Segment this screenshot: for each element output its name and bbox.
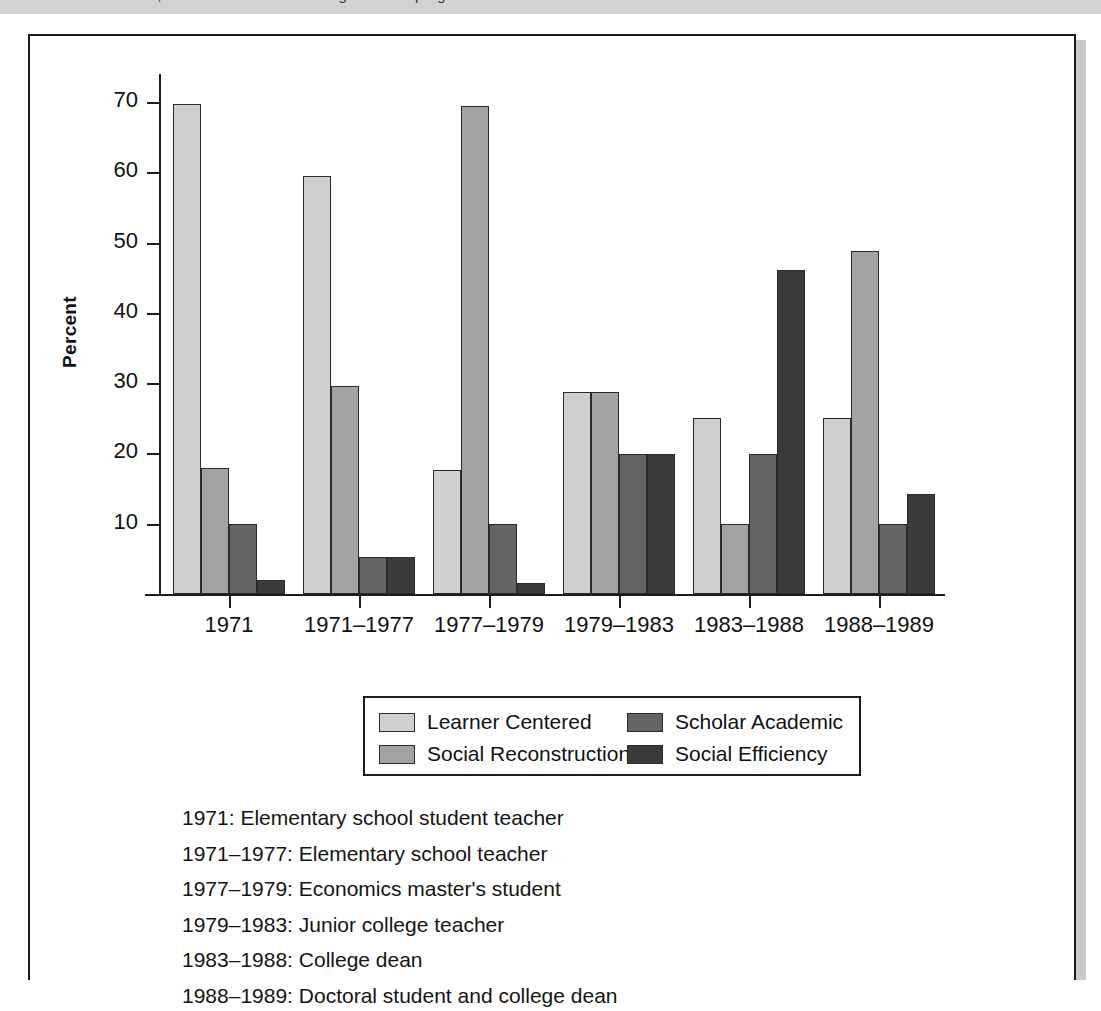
y-axis-tick-label: 50 — [90, 228, 138, 254]
x-axis-line — [145, 594, 945, 596]
bar-1971-1977-scholar-academic — [359, 557, 387, 594]
caption-line: 1988–1989: Doctoral student and college … — [182, 978, 1012, 1011]
x-axis-tick — [359, 596, 361, 608]
y-axis-tick — [147, 453, 159, 455]
bar-1983-1988-scholar-academic — [749, 454, 777, 594]
y-axis-tick — [147, 313, 159, 315]
bar-1979-1983-social-efficiency — [647, 454, 675, 594]
y-axis-tick-label: 30 — [90, 368, 138, 394]
legend-label: Social Reconstruction — [427, 742, 630, 766]
legend-label: Social Efficiency — [675, 742, 828, 766]
caption-line: 1979–1983: Junior college teacher — [182, 907, 1012, 943]
bar-chart-plot: Percent 10203040506070 19711971–19771977… — [30, 36, 1078, 646]
caption-line: 1977–1979: Economics master's student — [182, 871, 1012, 907]
bar-1971-learner-centered — [173, 104, 201, 594]
page-header-band: of a teacher educator, and the curriculu… — [0, 0, 1101, 14]
y-axis-line — [159, 74, 161, 596]
bar-1971-social-efficiency — [257, 580, 285, 594]
clipped-header-text: of a teacher educator, and the curriculu… — [12, 0, 472, 3]
bar-1977-1979-social-reconstruction — [461, 106, 489, 594]
legend-label: Learner Centered — [427, 710, 592, 734]
bar-1977-1979-scholar-academic — [489, 524, 517, 594]
bar-1988-1989-social-efficiency — [907, 494, 935, 594]
bar-1971-scholar-academic — [229, 524, 257, 594]
legend-row: Social Reconstruction Social Efficiency — [379, 738, 845, 770]
legend-row: Learner Centered Scholar Academic — [379, 706, 845, 738]
bar-1977-1979-learner-centered — [433, 470, 461, 594]
x-axis-tick — [489, 596, 491, 608]
y-axis-tick-label: 10 — [90, 509, 138, 535]
bar-1971-social-reconstruction — [201, 468, 229, 594]
caption-line: 1971–1977: Elementary school teacher — [182, 836, 1012, 872]
legend-label: Scholar Academic — [675, 710, 843, 734]
bar-1983-1988-social-efficiency — [777, 270, 805, 594]
bar-1979-1983-scholar-academic — [619, 454, 647, 594]
y-axis-tick-label: 40 — [90, 298, 138, 324]
bar-1988-1989-scholar-academic — [879, 524, 907, 594]
bar-1971-1977-learner-centered — [303, 176, 331, 594]
x-axis-tick — [879, 596, 881, 608]
legend-entry-social-reconstruction: Social Reconstruction — [379, 742, 627, 766]
legend-entry-learner-centered: Learner Centered — [379, 710, 627, 734]
bar-1979-1983-social-reconstruction — [591, 392, 619, 594]
legend-swatch-icon — [379, 745, 415, 764]
y-axis-tick — [147, 243, 159, 245]
bar-1971-1977-social-efficiency — [387, 557, 415, 594]
caption-line: 1971: Elementary school student teacher — [182, 800, 1012, 836]
bar-1983-1988-learner-centered — [693, 418, 721, 594]
caption-list: 1971: Elementary school student teacher … — [182, 800, 1012, 1011]
bar-1988-1989-learner-centered — [823, 418, 851, 594]
bar-1988-1989-social-reconstruction — [851, 251, 879, 594]
y-axis-tick-label: 20 — [90, 438, 138, 464]
legend-entry-social-efficiency: Social Efficiency — [627, 742, 828, 766]
chart-legend: Learner Centered Scholar Academic Social… — [363, 696, 861, 776]
bar-1977-1979-social-efficiency — [517, 583, 545, 594]
x-axis-tick-label: 1988–1989 — [784, 612, 974, 638]
caption-line: 1983–1988: College dean — [182, 942, 1012, 978]
bar-1979-1983-learner-centered — [563, 392, 591, 594]
y-axis-tick — [147, 102, 159, 104]
legend-swatch-icon — [627, 713, 663, 732]
figure-frame: Percent 10203040506070 19711971–19771977… — [28, 34, 1076, 980]
x-axis-tick — [229, 596, 231, 608]
y-axis-tick — [147, 524, 159, 526]
x-axis-tick — [619, 596, 621, 608]
bar-1983-1988-social-reconstruction — [721, 524, 749, 594]
y-axis-tick — [147, 383, 159, 385]
y-axis-tick-label: 70 — [90, 87, 138, 113]
y-axis-tick-label: 60 — [90, 157, 138, 183]
bar-1971-1977-social-reconstruction — [331, 386, 359, 594]
legend-entry-scholar-academic: Scholar Academic — [627, 710, 843, 734]
legend-swatch-icon — [379, 713, 415, 732]
x-axis-tick — [749, 596, 751, 608]
y-axis-tick — [147, 172, 159, 174]
legend-swatch-icon — [627, 745, 663, 764]
y-axis-title: Percent — [59, 232, 81, 432]
